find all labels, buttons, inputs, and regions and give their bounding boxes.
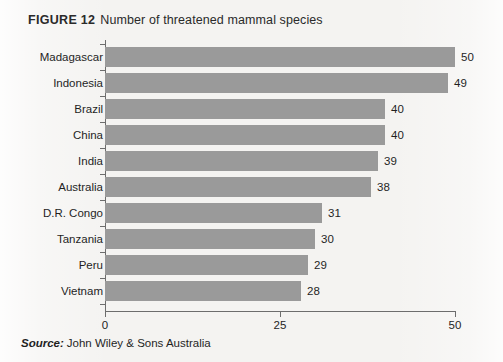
y-axis-tick	[100, 148, 105, 149]
y-axis-tick	[100, 200, 105, 201]
source-note: Source:John Wiley & Sons Australia	[21, 337, 211, 349]
bar	[105, 177, 371, 197]
y-axis-tick	[100, 122, 105, 123]
category-label: Brazil	[0, 99, 103, 119]
bar-value-label: 30	[321, 229, 334, 249]
bar	[105, 151, 378, 171]
x-axis-tick-label: 0	[102, 319, 108, 331]
bar	[105, 203, 322, 223]
bar-row: India39	[105, 148, 455, 174]
x-axis-tick	[455, 311, 456, 317]
category-label: Madagascar	[0, 47, 103, 67]
x-axis-tick	[105, 311, 106, 317]
plot-area: Madagascar50Indonesia49Brazil40China40In…	[105, 40, 455, 312]
y-axis-tick	[100, 96, 105, 97]
bar-value-label: 39	[384, 151, 397, 171]
y-axis-tick	[100, 278, 105, 279]
bar	[105, 255, 308, 275]
y-axis-tick	[100, 70, 105, 71]
y-axis-tick	[100, 226, 105, 227]
bar-chart: Madagascar50Indonesia49Brazil40China40In…	[0, 0, 503, 362]
x-axis-tick-label: 25	[274, 319, 287, 331]
source-label: Source:	[21, 337, 64, 349]
bar-row: Australia38	[105, 174, 455, 200]
bar	[105, 99, 385, 119]
source-text: John Wiley & Sons Australia	[67, 337, 211, 349]
category-label: Peru	[0, 255, 103, 275]
bar-row: Vietnam28	[105, 278, 455, 304]
bar-row: Madagascar50	[105, 44, 455, 70]
category-label: D.R. Congo	[0, 203, 103, 223]
x-axis-tick	[280, 311, 281, 317]
bar-value-label: 31	[328, 203, 341, 223]
category-label: Indonesia	[0, 73, 103, 93]
bar-value-label: 40	[391, 125, 404, 145]
bar	[105, 229, 315, 249]
category-label: China	[0, 125, 103, 145]
category-label: India	[0, 151, 103, 171]
category-label: Australia	[0, 177, 103, 197]
bar-value-label: 49	[454, 73, 467, 93]
bar-row: Indonesia49	[105, 70, 455, 96]
bar-value-label: 28	[307, 281, 320, 301]
y-axis-tick	[100, 304, 105, 305]
bar-row: Tanzania30	[105, 226, 455, 252]
bar-value-label: 38	[377, 177, 390, 197]
bar-value-label: 50	[461, 47, 474, 67]
bar-row: Brazil40	[105, 96, 455, 122]
y-axis-tick	[100, 174, 105, 175]
y-axis-tick	[100, 252, 105, 253]
bar	[105, 281, 301, 301]
category-label: Tanzania	[0, 229, 103, 249]
bar-row: D.R. Congo31	[105, 200, 455, 226]
bar	[105, 73, 448, 93]
bar-value-label: 40	[391, 99, 404, 119]
bar	[105, 125, 385, 145]
bar-row: Peru29	[105, 252, 455, 278]
y-axis-tick	[100, 44, 105, 45]
bar	[105, 47, 455, 67]
bar-value-label: 29	[314, 255, 327, 275]
category-label: Vietnam	[0, 281, 103, 301]
x-axis-tick-label: 50	[449, 319, 462, 331]
bar-row: China40	[105, 122, 455, 148]
